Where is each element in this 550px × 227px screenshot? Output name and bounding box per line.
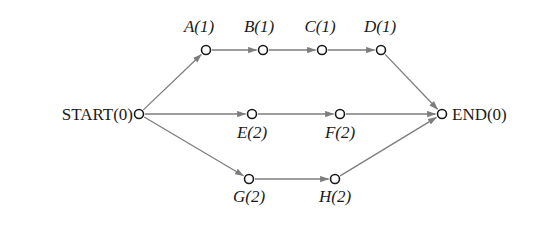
edges-layer (143, 50, 437, 179)
edge-start-to-g (144, 117, 243, 176)
node-label-f: F(2) (325, 124, 355, 141)
node-label-end: END(0) (452, 106, 507, 123)
node-label-e: E(2) (237, 124, 267, 141)
node-start[interactable] (135, 110, 144, 119)
node-label-h: H(2) (319, 188, 351, 205)
node-b[interactable] (259, 46, 268, 55)
node-e[interactable] (248, 110, 257, 119)
node-label-a: A(1) (184, 18, 214, 35)
edge-d-to-end (385, 54, 437, 109)
node-c[interactable] (318, 46, 327, 55)
node-end[interactable] (438, 110, 447, 119)
node-d[interactable] (377, 46, 386, 55)
node-g[interactable] (245, 175, 254, 184)
node-a[interactable] (202, 46, 211, 55)
edge-start-to-a (143, 54, 201, 109)
node-label-d: D(1) (364, 18, 396, 35)
node-label-start: START(0) (62, 106, 133, 123)
node-label-b: B(1) (244, 18, 274, 35)
node-h[interactable] (331, 175, 340, 184)
node-label-g: G(2) (233, 188, 265, 205)
diagram-canvas: START(0)A(1)B(1)C(1)D(1)E(2)F(2)G(2)H(2)… (0, 0, 550, 227)
node-f[interactable] (336, 110, 345, 119)
node-label-c: C(1) (304, 18, 335, 35)
